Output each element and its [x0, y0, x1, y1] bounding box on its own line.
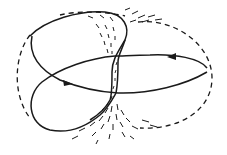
arrow-right-lobe-icon: [167, 53, 176, 60]
outer-boundary: [17, 12, 212, 128]
upper-field-lines: [88, 8, 162, 54]
diagram-canvas: [0, 0, 227, 155]
figure-eight-loop: [30, 12, 207, 131]
lower-field-lines: [72, 104, 157, 144]
arrow-left-lobe-icon: [63, 80, 73, 86]
figure-eight-diagram: [0, 0, 227, 155]
